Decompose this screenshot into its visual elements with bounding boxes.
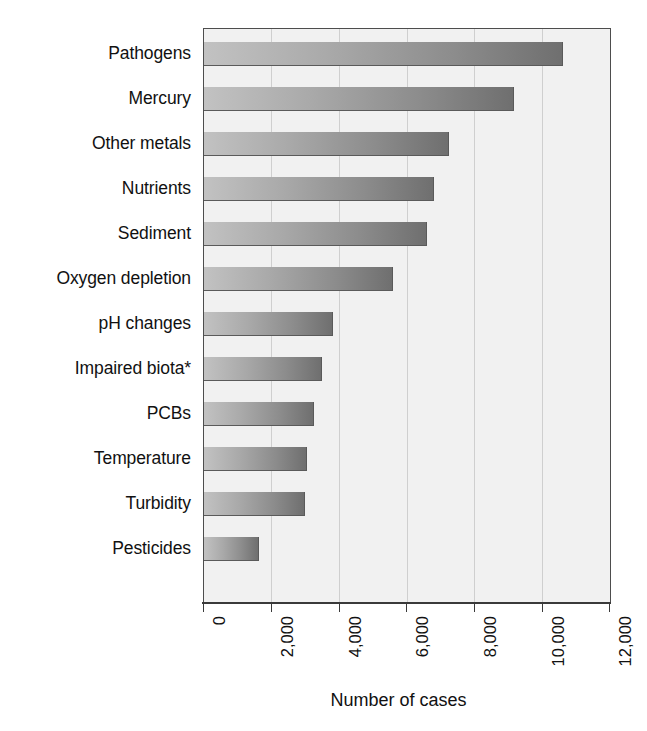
gridline-10000	[542, 29, 543, 602]
tick-label-6000: 6,000	[413, 616, 432, 657]
tick-mark-0	[203, 604, 204, 612]
gridline-6000	[407, 29, 408, 602]
x-axis-title-text: Number of cases	[330, 690, 466, 711]
bar-ph-changes	[204, 312, 333, 336]
category-label-ph-changes: pH changes	[99, 311, 191, 335]
tick-mark-2000	[271, 604, 272, 612]
category-label-pcbs: PCBs	[147, 401, 191, 425]
tick-label-10000: 10,000	[549, 616, 568, 666]
bar-pesticides	[204, 537, 259, 561]
tick-label-2000: 2,000	[278, 616, 297, 657]
gridline-4000	[339, 29, 340, 602]
bar-temperature	[204, 447, 307, 471]
category-label-oxygen-depletion: Oxygen depletion	[56, 266, 191, 290]
category-label-temperature: Temperature	[94, 446, 191, 470]
bar-oxygen-depletion	[204, 267, 393, 291]
tick-mark-6000	[406, 604, 407, 612]
bar-sediment	[204, 222, 427, 246]
bar-other-metals	[204, 132, 449, 156]
category-label-pesticides: Pesticides	[112, 536, 191, 560]
bar-turbidity	[204, 492, 305, 516]
category-label-other-metals: Other metals	[92, 131, 191, 155]
gridline-8000	[474, 29, 475, 602]
category-axis-labels: Pathogens Mercury Other metals Nutrients…	[0, 28, 198, 601]
category-label-sediment: Sediment	[118, 221, 191, 245]
tick-mark-10000	[542, 604, 543, 612]
tick-label-8000: 8,000	[481, 616, 500, 657]
bar-pathogens	[204, 42, 563, 66]
bar-mercury	[204, 87, 514, 111]
bar-chart-figure: Pathogens Mercury Other metals Nutrients…	[0, 0, 647, 731]
plot-inner	[204, 29, 610, 602]
bar-impaired-biota	[204, 357, 322, 381]
tick-label-4000: 4,000	[346, 616, 365, 657]
x-axis-title: Number of cases	[0, 690, 647, 711]
category-label-turbidity: Turbidity	[125, 491, 191, 515]
category-label-nutrients: Nutrients	[122, 176, 191, 200]
category-label-pathogens: Pathogens	[108, 41, 191, 65]
tick-mark-12000	[609, 604, 610, 612]
tick-mark-8000	[474, 604, 475, 612]
plot-area	[203, 28, 611, 603]
bar-nutrients	[204, 177, 434, 201]
tick-label-12000: 12,000	[616, 616, 635, 666]
category-label-mercury: Mercury	[129, 86, 192, 110]
tick-mark-4000	[339, 604, 340, 612]
bar-pcbs	[204, 402, 314, 426]
tick-label-0: 0	[210, 616, 229, 625]
category-label-impaired-biota: Impaired biota*	[75, 356, 191, 380]
